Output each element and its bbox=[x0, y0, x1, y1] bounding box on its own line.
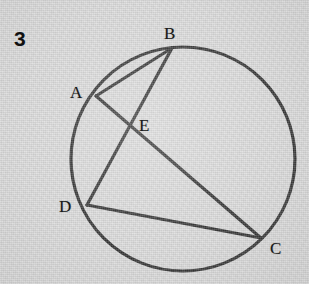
segment-dc bbox=[87, 205, 261, 238]
point-label-d: D bbox=[59, 198, 71, 215]
point-label-b: B bbox=[164, 25, 175, 42]
geometry-figure-canvas: 3 A B C D E bbox=[0, 0, 309, 284]
point-label-a: A bbox=[70, 84, 82, 101]
problem-number: 3 bbox=[14, 28, 26, 49]
segment-ac bbox=[96, 96, 261, 238]
point-label-e: E bbox=[139, 117, 149, 134]
circle-geometry-diagram bbox=[0, 0, 309, 284]
point-label-c: C bbox=[270, 240, 281, 257]
